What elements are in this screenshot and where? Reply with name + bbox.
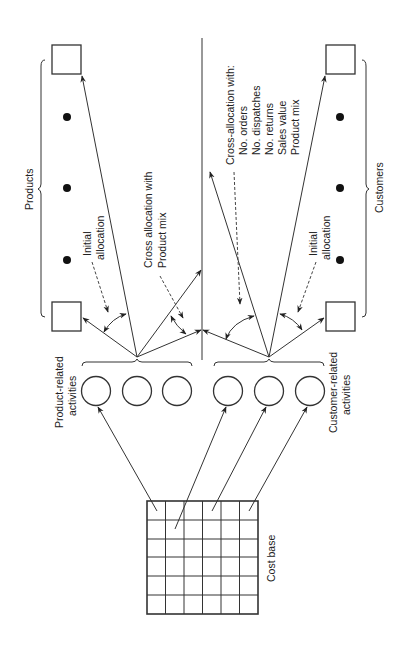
customer-activities-brace (214, 359, 324, 366)
cross-allocation-item: Sales value (276, 101, 288, 155)
cross-allocation-item: No. dispatches (250, 86, 262, 155)
arrow-cross-to-divider-upper-c (210, 172, 269, 357)
customer-dot (336, 113, 344, 121)
cross-allocation-item: No. returns (263, 103, 275, 155)
cross-allocation-product-1: Cross allocation with (142, 172, 154, 268)
cross-allocation-arc-product (171, 316, 186, 334)
customer-activity-circle (255, 377, 284, 406)
product-activity-circle (163, 377, 192, 406)
products-brace (38, 60, 45, 317)
initial-allocation-pointer-customer (298, 262, 316, 312)
customer-activities-label-2: activities (340, 375, 352, 415)
initial-allocation-arc-product (104, 314, 126, 332)
product-box-top (52, 45, 81, 74)
initial-allocation-arc-customer (280, 314, 302, 330)
initial-allocation-customer-1: Initial (307, 231, 319, 256)
arrow-cross-to-divider-lower-c (203, 330, 269, 357)
product-box-bottom (52, 302, 81, 331)
initial-allocation-customer-2: allocation (320, 215, 332, 260)
cross-allocation-arc-customer (226, 316, 254, 339)
customer-activity-circle (296, 377, 325, 406)
product-activities-brace (82, 359, 192, 366)
cross-allocation-item: No. orders (237, 106, 249, 155)
customer-box-bottom (326, 302, 355, 331)
activity-based-cost-diagram: Products Customers Product-related activ… (0, 0, 400, 648)
product-activity-circle (82, 377, 111, 406)
products-label: Products (23, 169, 35, 210)
customer-dot (336, 184, 344, 192)
initial-allocation-product-2: allocation (94, 215, 106, 260)
cross-allocation-item: Product mix (289, 99, 301, 155)
customer-activity-circle (214, 377, 243, 406)
cross-allocation-customer-title: Cross-allocation with: (224, 65, 236, 165)
initial-allocation-pointer-product (92, 262, 108, 312)
cost-base-grid (147, 501, 258, 614)
customer-box-top (326, 45, 355, 74)
arrow-cost-to-product-activity (98, 407, 157, 511)
arrow-to-product-box-top (82, 76, 137, 357)
product-dot (63, 113, 71, 121)
customers-label: Customers (373, 162, 385, 213)
cross-allocation-product-2: Product mix (156, 212, 168, 268)
product-dot (63, 184, 71, 192)
customer-activities-label-1: Customer-related (327, 352, 339, 433)
cross-allocation-pointer-product (160, 276, 183, 318)
initial-allocation-product-1: Initial (81, 231, 93, 256)
product-dot (63, 256, 71, 264)
customers-brace (362, 60, 369, 317)
product-activity-circle (123, 377, 152, 406)
product-activities-label-2: activities (66, 376, 78, 416)
customer-dot (336, 256, 344, 264)
product-activities-label-1: Product-related (53, 356, 65, 428)
cost-base-label: Cost base (265, 535, 277, 582)
cross-allocation-pointer-customer (234, 172, 240, 304)
